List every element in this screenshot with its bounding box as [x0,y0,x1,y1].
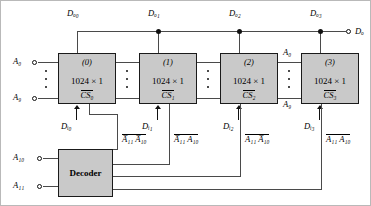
ellipsis-address-1-2 [206,70,210,88]
address-link-1-2-bottom [197,98,220,99]
ellipsis-address-2-3 [287,70,291,88]
memory-block-2[interactable]: (2) 1024 × 1 CS₂ [220,53,278,104]
data-out-leg-1 [158,31,159,53]
address-label-a0-left: A₀ [13,57,21,66]
memory-block-3-capacity: 1024 × 1 [302,76,358,86]
label-data-in-2: Dᵢ₂ [223,122,234,131]
ellipsis-address-0-1 [125,70,129,88]
memory-block-0-number: (0) [59,57,115,67]
memory-block-3[interactable]: (3) 1024 × 1 CS₃ [301,53,359,104]
label-data-in-3: Dᵢ₃ [304,122,315,131]
label-data-out-1: Dₒ₁ [148,9,160,18]
address-wire-a9-left [38,98,58,99]
data-in-wire-1 [157,109,158,120]
address-terminal-a0-left[interactable] [32,60,37,65]
memory-block-1-capacity: 1024 × 1 [140,76,196,86]
decoder-out-2-seg-h1 [113,176,241,177]
decoder-input-terminal-a11[interactable] [37,184,42,189]
decoder-label: Decoder [70,168,102,178]
memory-block-2-capacity: 1024 × 1 [221,76,277,86]
label-data-in-0: Dᵢ₀ [61,122,72,131]
data-out-leg-0 [77,31,78,53]
decoder-term-label-3: A₁₁ A₁₀ [326,134,350,144]
data-in-wire-2 [238,109,239,120]
data-out-leg-2 [239,31,240,53]
decoder-out-0-seg-v2 [89,104,90,115]
decoder-out-2-seg-v1 [240,114,241,177]
junction-dot-2 [237,29,242,34]
decoder-term-label-0: A̅₁₁ A̅₁₀ [122,134,146,144]
address-link-0-1-bottom [116,98,139,99]
decoder-out-2-seg-v2 [240,104,241,115]
memory-block-2-number: (2) [221,57,277,67]
label-data-out-2: Dₒ₂ [229,9,241,18]
decoder-out-0-seg-v1 [117,114,118,150]
decoder-input-label-a10: A₁₀ [13,153,24,162]
decoder-out-3-seg-v1 [321,114,322,190]
memory-decoder-diagram: Dₒ Dₒ₀ Dₒ₁ Dₒ₂ Dₒ₃ (0) 1024 × 1 CS₀ (1) … [0,0,371,206]
memory-block-1-number: (1) [140,57,196,67]
decoder-input-label-a11: A₁₁ [13,181,24,190]
data-in-arrow-0 [74,105,80,109]
junction-dot-1 [156,29,161,34]
memory-block-3-cs: CS₃ [302,90,358,100]
memory-block-1[interactable]: (1) 1024 × 1 CS₁ [139,53,197,104]
decoder-out-1-seg-v2 [169,104,170,115]
decoder-out-3-seg-h1 [113,189,322,190]
decoder-out-1-seg-v1 [169,114,170,165]
address-label-a9-right: A₉ [283,100,291,109]
decoder-out-1-seg-h1 [113,164,170,165]
data-out-leg-3 [320,31,321,53]
memory-block-2-cs: CS₂ [221,90,277,100]
data-in-arrow-3 [317,105,323,109]
output-label-do: Dₒ [355,27,364,36]
data-in-arrow-2 [236,105,242,109]
decoder-input-terminal-a10[interactable] [37,156,42,161]
address-wire-a0-left [38,62,58,63]
label-data-out-3: Dₒ₃ [310,9,322,18]
decoder-input-wire-a10 [43,158,58,159]
address-link-2-3-top [278,62,301,63]
address-terminal-a9-left[interactable] [32,96,37,101]
memory-block-1-cs: CS₁ [140,90,196,100]
junction-dot-3 [318,29,323,34]
address-label-a0-right: A₀ [283,48,291,57]
output-terminal-do[interactable] [346,29,351,34]
decoder-out-3-seg-v2 [321,104,322,115]
decoder-block[interactable]: Decoder [58,149,113,197]
address-label-a9-left: A₉ [13,93,21,102]
memory-block-0[interactable]: (0) 1024 × 1 CS₀ [58,53,116,104]
data-in-wire-3 [319,109,320,120]
address-link-0-1-top [116,62,139,63]
decoder-term-label-2: A₁₁ A̅₁₀ [245,134,269,144]
ellipsis-address-left [44,70,48,88]
label-data-in-1: Dᵢ₁ [142,122,153,131]
memory-block-0-capacity: 1024 × 1 [59,76,115,86]
address-link-1-2-top [197,62,220,63]
label-data-out-0: Dₒ₀ [67,9,79,18]
data-in-arrow-1 [155,105,161,109]
memory-block-3-number: (3) [302,57,358,67]
decoder-out-0-seg-h2 [89,114,118,115]
decoder-term-label-1: A̅₁₁ A₁₀ [174,134,198,144]
memory-block-0-cs: CS₀ [59,90,115,100]
data-output-bus [77,31,346,32]
decoder-input-wire-a11 [43,186,58,187]
data-in-wire-0 [76,109,77,120]
